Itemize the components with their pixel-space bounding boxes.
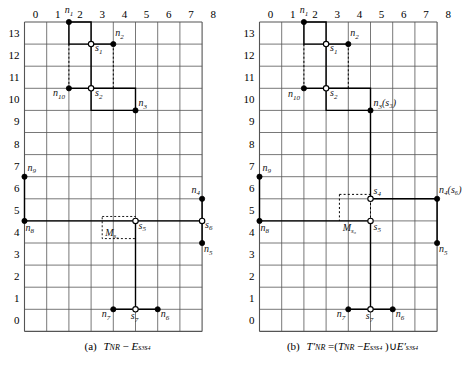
y-tick-8: 8: [14, 138, 20, 150]
y-tick-3: 3: [14, 248, 20, 260]
label-n9: n9: [28, 162, 37, 176]
node-n7[interactable]: [111, 307, 116, 312]
y-tick-0: 0: [14, 314, 20, 326]
y-tick-9: 9: [249, 115, 255, 127]
label-n3: n3: [139, 97, 148, 111]
label-n2: n2: [115, 27, 124, 41]
switch-s2[interactable]: [88, 86, 93, 91]
x-tick-7: 7: [423, 8, 429, 20]
y-tick-7: 7: [14, 160, 20, 172]
x-tick-3: 3: [99, 8, 105, 20]
node-n10[interactable]: [66, 86, 71, 91]
caption-b: (b) T′NR =(TNR −Es3s4 )∪E′s3s4: [235, 340, 470, 353]
caption-b-label: (b): [287, 340, 300, 352]
axis-labels: 012345678131211109876543210: [9, 8, 217, 326]
y-tick-11: 11: [9, 71, 20, 83]
panel-a: 012345678131211109876543210Ms₆n1n2s1n10s…: [0, 0, 235, 368]
switch-s2[interactable]: [323, 86, 328, 91]
x-tick-2: 2: [77, 8, 83, 20]
y-tick-4: 4: [14, 226, 20, 238]
node-n7[interactable]: [346, 307, 351, 312]
grid-diagram-a: 012345678131211109876543210Ms₆n1n2s1n10s…: [0, 0, 235, 340]
label-n8: n8: [26, 222, 35, 236]
label-s2: s2: [95, 87, 103, 101]
node-n9[interactable]: [257, 174, 262, 179]
x-tick-5: 5: [144, 8, 150, 20]
label-n6: n6: [161, 308, 170, 322]
x-tick-3: 3: [334, 8, 340, 20]
label-n10: n10: [288, 88, 301, 102]
axis-labels: 012345678131211109876543210: [244, 8, 452, 326]
label-n1: n1: [300, 4, 309, 18]
label-n8: n8: [261, 222, 270, 236]
m-region: Ms₆: [102, 216, 135, 239]
y-tick-2: 2: [249, 270, 255, 282]
switch-s4[interactable]: [368, 196, 373, 201]
x-tick-1: 1: [290, 8, 296, 20]
y-tick-1: 1: [249, 292, 255, 304]
switch-s6[interactable]: [199, 218, 204, 223]
x-tick-6: 6: [166, 8, 172, 20]
y-tick-10: 10: [9, 93, 21, 105]
nodes: n1n2s1n10s2n3n9n8n4s6n5s5n7s7n6: [22, 4, 213, 324]
label-s2: s2: [330, 87, 338, 101]
node-n2[interactable]: [111, 42, 116, 47]
y-tick-12: 12: [244, 49, 255, 61]
switch-s5[interactable]: [368, 218, 373, 223]
x-tick-4: 4: [357, 8, 363, 20]
label-n7: n7: [337, 308, 346, 322]
y-tick-4: 4: [249, 226, 255, 238]
label-n10: n10: [53, 87, 66, 101]
node-n6[interactable]: [390, 307, 395, 312]
y-tick-7: 7: [249, 160, 255, 172]
y-tick-9: 9: [14, 115, 20, 127]
switch-s1[interactable]: [323, 41, 328, 46]
x-tick-4: 4: [122, 8, 128, 20]
switch-s5[interactable]: [133, 218, 138, 223]
label-n5: n5: [439, 243, 448, 257]
y-tick-11: 11: [244, 71, 255, 83]
x-tick-0: 0: [33, 8, 39, 20]
panel-b: 012345678131211109876543210Ms₆n1n2s1n10s…: [235, 0, 470, 368]
y-tick-12: 12: [9, 49, 20, 61]
figure-root: 012345678131211109876543210Ms₆n1n2s1n10s…: [0, 0, 470, 368]
x-tick-5: 5: [379, 8, 385, 20]
node-n10[interactable]: [301, 86, 306, 91]
node-n9[interactable]: [22, 174, 27, 179]
label-s4: s4: [374, 185, 382, 199]
node-n4[interactable]: [200, 196, 205, 201]
node-n3[interactable]: [133, 108, 138, 113]
label-n2: n2: [350, 27, 359, 41]
y-tick-6: 6: [249, 182, 255, 194]
y-tick-3: 3: [249, 248, 255, 260]
grid-lines: [260, 22, 438, 331]
m-region-label: Ms₆: [342, 222, 357, 235]
label-n7: n7: [102, 308, 111, 322]
switch-s1[interactable]: [88, 41, 93, 46]
label-n9: n9: [263, 162, 272, 176]
node-n2[interactable]: [346, 42, 351, 47]
node-n1[interactable]: [66, 19, 71, 24]
label-n4s6: n4(s₆): [439, 184, 462, 198]
x-tick-8: 8: [445, 8, 451, 20]
x-tick-8: 8: [210, 8, 216, 20]
label-s6: s6: [205, 219, 213, 233]
node-n4s6[interactable]: [435, 196, 440, 201]
x-tick-6: 6: [401, 8, 407, 20]
node-n1[interactable]: [301, 19, 306, 24]
node-n6[interactable]: [155, 307, 160, 312]
label-s5: s5: [374, 221, 382, 235]
x-tick-0: 0: [268, 8, 274, 20]
label-n6: n6: [396, 308, 405, 322]
y-tick-6: 6: [14, 182, 20, 194]
label-n4: n4: [192, 184, 201, 198]
label-n1: n1: [65, 4, 74, 18]
y-tick-8: 8: [249, 138, 255, 150]
y-tick-2: 2: [14, 270, 20, 282]
caption-a-label: (a): [84, 340, 96, 352]
x-tick-1: 1: [55, 8, 61, 20]
caption-a: (a) TNR − Es3s4: [0, 340, 235, 352]
node-n3s3[interactable]: [368, 108, 373, 113]
x-tick-7: 7: [188, 8, 194, 20]
y-tick-5: 5: [249, 204, 255, 216]
